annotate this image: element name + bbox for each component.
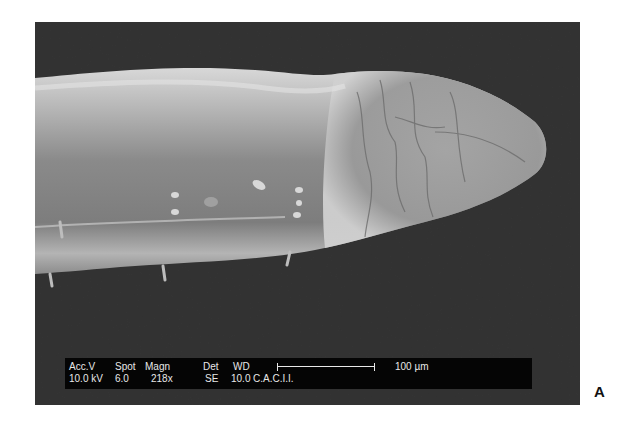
header-magn: Magn	[145, 361, 170, 373]
sem-data-bar: Acc.V Spot Magn Det WD 10.0 kV 6.0 218x …	[65, 358, 532, 389]
header-acc-v: Acc.V	[69, 361, 95, 373]
value-facility: C.A.C.I.I.	[253, 373, 294, 385]
sem-micrograph: Acc.V Spot Magn Det WD 10.0 kV 6.0 218x …	[35, 22, 580, 405]
value-magn: 218x	[151, 373, 173, 385]
scale-bar	[277, 366, 375, 367]
value-acc-v: 10.0 kV	[69, 373, 103, 385]
figure-panel: Acc.V Spot Magn Det WD 10.0 kV 6.0 218x …	[0, 0, 623, 427]
header-spot: Spot	[115, 361, 136, 373]
value-wd: 10.0	[231, 373, 250, 385]
value-det: SE	[205, 373, 218, 385]
header-det: Det	[203, 361, 219, 373]
header-wd: WD	[233, 361, 250, 373]
panel-label: A	[594, 383, 605, 400]
value-spot: 6.0	[115, 373, 129, 385]
specimen-illustration	[35, 22, 580, 405]
scale-bar-label: 100 µm	[395, 361, 429, 373]
